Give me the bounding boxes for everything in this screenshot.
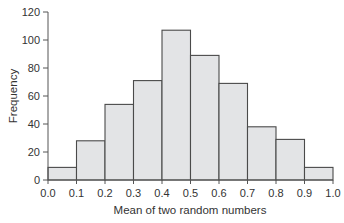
histogram-bar xyxy=(162,30,191,180)
histogram-bar xyxy=(134,81,163,180)
histogram-bar xyxy=(191,55,220,180)
y-tick-label: 40 xyxy=(28,118,40,130)
x-tick-label: 0.6 xyxy=(211,187,226,199)
y-tick-label: 60 xyxy=(28,90,40,102)
x-tick-label: 0.1 xyxy=(69,187,84,199)
x-tick-label: 1.0 xyxy=(325,187,340,199)
x-axis-title: Mean of two random numbers xyxy=(114,204,267,216)
y-axis-title: Frequency xyxy=(7,69,19,124)
y-tick-label: 120 xyxy=(22,6,40,18)
x-tick-label: 0.8 xyxy=(268,187,283,199)
histogram-bar xyxy=(219,83,248,180)
histogram-chart: 020406080100120 0.00.10.20.30.40.50.60.7… xyxy=(0,0,344,223)
histogram-bar xyxy=(276,139,305,180)
x-tick-label: 0.3 xyxy=(126,187,141,199)
x-tick-label: 0.5 xyxy=(183,187,198,199)
histogram-bar xyxy=(77,141,106,180)
histogram-bar xyxy=(48,167,77,180)
histogram-bar xyxy=(105,104,134,180)
y-tick-label: 80 xyxy=(28,62,40,74)
y-tick-label: 0 xyxy=(34,174,40,186)
histogram-bar xyxy=(305,167,334,180)
y-axis: 020406080100120 xyxy=(22,6,48,186)
x-tick-label: 0.4 xyxy=(154,187,169,199)
x-tick-label: 0.2 xyxy=(97,187,112,199)
x-axis: 0.00.10.20.30.40.50.60.70.80.91.0 xyxy=(40,180,340,199)
x-tick-label: 0.7 xyxy=(240,187,255,199)
histogram-bars xyxy=(48,30,333,180)
y-tick-label: 100 xyxy=(22,34,40,46)
x-tick-label: 0.9 xyxy=(297,187,312,199)
y-tick-label: 20 xyxy=(28,146,40,158)
x-tick-label: 0.0 xyxy=(40,187,55,199)
histogram-bar xyxy=(248,127,277,180)
